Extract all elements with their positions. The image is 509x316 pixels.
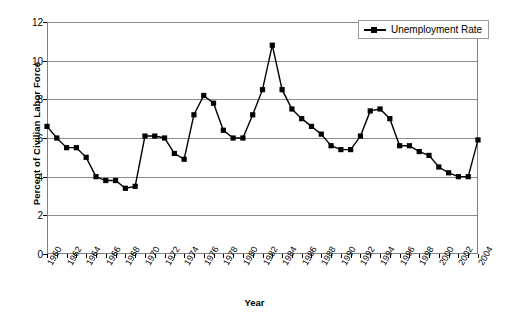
data-point-marker xyxy=(319,132,324,137)
data-point-marker xyxy=(348,147,353,152)
legend-marker-icon xyxy=(364,25,386,35)
data-point-marker xyxy=(211,101,216,106)
y-tick-label: 4 xyxy=(5,171,43,182)
series-unemployment-rate xyxy=(47,22,478,254)
data-point-marker xyxy=(309,124,314,129)
data-point-marker xyxy=(387,116,392,121)
data-point-marker xyxy=(201,93,206,98)
data-point-marker xyxy=(182,157,187,162)
x-tick-label: 2004 xyxy=(476,245,495,267)
legend-label: Unemployment Rate xyxy=(391,24,482,35)
data-point-marker xyxy=(358,133,363,138)
data-point-marker xyxy=(152,133,157,138)
data-point-marker xyxy=(456,174,461,179)
data-point-marker xyxy=(289,106,294,111)
y-tick-label: 6 xyxy=(5,133,43,144)
data-point-marker xyxy=(407,143,412,148)
data-point-marker xyxy=(260,87,265,92)
data-point-marker xyxy=(426,153,431,158)
data-point-marker xyxy=(191,112,196,117)
data-point-marker xyxy=(54,135,59,140)
data-point-marker xyxy=(142,133,147,138)
data-point-marker xyxy=(446,170,451,175)
data-point-marker xyxy=(172,151,177,156)
data-point-marker xyxy=(279,87,284,92)
legend-square-icon xyxy=(371,27,377,33)
data-point-marker xyxy=(328,143,333,148)
data-point-marker xyxy=(162,135,167,140)
data-point-marker xyxy=(368,108,373,113)
chart-legend: Unemployment Rate xyxy=(358,20,489,39)
data-point-marker xyxy=(133,184,138,189)
data-point-marker xyxy=(377,106,382,111)
y-tick-label: 12 xyxy=(5,17,43,28)
data-point-marker xyxy=(113,178,118,183)
data-point-marker xyxy=(270,43,275,48)
data-point-marker xyxy=(466,174,471,179)
data-point-marker xyxy=(250,112,255,117)
data-point-marker xyxy=(397,143,402,148)
series-line xyxy=(47,45,478,188)
data-point-marker xyxy=(93,174,98,179)
data-point-marker xyxy=(64,145,69,150)
data-point-marker xyxy=(123,186,128,191)
data-point-marker xyxy=(338,147,343,152)
y-axis-ticks: 024681012 xyxy=(0,0,43,316)
data-point-marker xyxy=(74,145,79,150)
data-point-marker xyxy=(44,124,49,129)
data-point-marker xyxy=(436,164,441,169)
data-point-marker xyxy=(475,137,480,142)
y-tick-label: 10 xyxy=(5,55,43,66)
data-point-marker xyxy=(221,128,226,133)
y-tick-label: 2 xyxy=(5,210,43,221)
data-point-marker xyxy=(240,135,245,140)
y-tick-label: 0 xyxy=(5,249,43,260)
data-point-marker xyxy=(417,149,422,154)
data-point-marker xyxy=(103,178,108,183)
unemployment-rate-chart: Percent of Civilian Labor Force 02468101… xyxy=(0,0,509,316)
data-point-marker xyxy=(231,135,236,140)
x-axis-title: Year xyxy=(0,297,509,308)
data-point-marker xyxy=(84,155,89,160)
data-point-marker xyxy=(299,116,304,121)
y-tick-label: 8 xyxy=(5,94,43,105)
